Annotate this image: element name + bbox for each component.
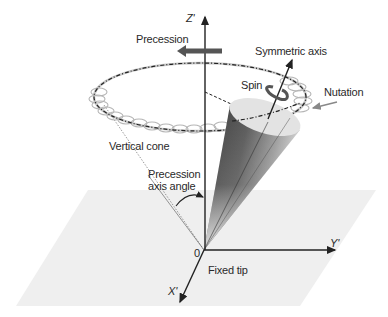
precession-axis-angle-label-line2: axis angle [148, 180, 196, 192]
z-axis-label: Z' [186, 12, 194, 24]
symmetric-axis-label: Symmetric axis [255, 45, 327, 57]
nutation-pointer [313, 102, 337, 108]
top-motion-diagram: Z' Precession Symmetric axis Spin Nutati… [0, 0, 388, 317]
spin-label: Spin [241, 79, 262, 91]
precession-label: Precession [136, 33, 188, 45]
fixed-tip-label: Fixed tip [208, 264, 248, 276]
vertical-cone-label: Vertical cone [109, 140, 169, 152]
diagram-canvas [0, 0, 388, 317]
precession-axis-angle-label-line1: Precession [148, 168, 200, 180]
origin-label: 0 [194, 247, 200, 259]
nutation-label: Nutation [324, 86, 363, 98]
y-axis-label: Y' [330, 237, 339, 249]
spin-arrow [267, 86, 288, 99]
x-axis-label: X' [168, 285, 177, 297]
